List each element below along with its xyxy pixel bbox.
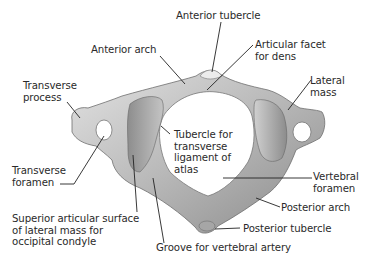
- label-transverse-process: Transverse process: [23, 80, 77, 103]
- label-anterior-arch: Anterior arch: [91, 44, 156, 56]
- label-anterior-tubercle: Anterior tubercle: [176, 10, 261, 22]
- right-transverse-foramen: [293, 122, 311, 142]
- label-posterior-arch: Posterior arch: [281, 202, 350, 214]
- label-posterior-tubercle: Posterior tubercle: [243, 223, 331, 235]
- label-superior-articular-surface: Superior articular surface of lateral ma…: [12, 213, 139, 248]
- label-lateral-mass: Lateral mass: [310, 75, 345, 98]
- left-transverse-foramen: [96, 120, 112, 140]
- posterior-tubercle-shape: [199, 221, 215, 231]
- anterior-tubercle-shape: [200, 70, 222, 79]
- label-tubercle-for-transverse-ligament: Tubercle for transverse ligament of atla…: [174, 129, 233, 175]
- label-articular-facet-for-dens: Articular facet for dens: [255, 39, 326, 62]
- label-groove-for-vertebral-artery: Groove for vertebral artery: [156, 242, 291, 254]
- label-transverse-foramen: Transverse foramen: [12, 165, 66, 188]
- label-vertebral-foramen: Vertebral foramen: [313, 171, 359, 194]
- atlas-diagram: Anterior tubercle Anterior arch Articula…: [0, 0, 373, 265]
